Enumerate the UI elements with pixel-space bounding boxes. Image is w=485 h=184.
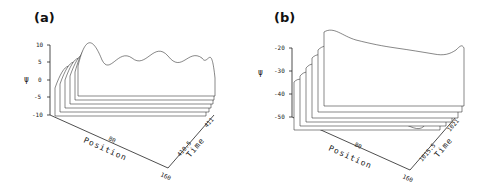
z-tick-a-0: 10 bbox=[36, 41, 44, 48]
waterfall-lines-a bbox=[55, 43, 215, 116]
chart-panel-b: (b) -20 -30 -40 -50 ψ 80 Position 160 10… bbox=[242, 0, 484, 184]
z-tick-a-4: -10 bbox=[32, 111, 43, 118]
z-tick-a-2: 0 bbox=[38, 76, 42, 83]
t-axis-label-b: Time bbox=[433, 136, 455, 160]
z-tick-a-3: -5 bbox=[34, 93, 42, 100]
z-tick-b-2: -40 bbox=[274, 90, 285, 97]
x-tick-a-mid: 80 bbox=[108, 135, 118, 144]
z-axis-label-a: ψ bbox=[24, 75, 30, 84]
x-axis-label-b: Position bbox=[327, 144, 373, 171]
x-tick-a-end: 160 bbox=[160, 171, 173, 182]
z-tick-a-1: 5 bbox=[38, 58, 42, 65]
t-tick-a-end: 411 bbox=[202, 116, 215, 129]
z-tick-b-1: -30 bbox=[274, 67, 285, 74]
surface-plot-b: -20 -30 -40 -50 ψ 80 Position 160 1015.5… bbox=[242, 0, 484, 184]
waterfall-lines-b bbox=[294, 30, 464, 130]
x-tick-b-end: 160 bbox=[402, 173, 415, 184]
z-axis-label-b: ψ bbox=[258, 68, 264, 77]
z-tick-b-0: -20 bbox=[274, 44, 285, 51]
z-tick-b-3: -50 bbox=[274, 113, 285, 120]
surface-plot-a: 10 5 0 -5 -10 ψ 80 Position 160 410.5 Ti… bbox=[0, 0, 242, 184]
chart-panel-a: (a) 10 5 0 -5 -10 ψ 80 Position 160 410.… bbox=[0, 0, 242, 184]
